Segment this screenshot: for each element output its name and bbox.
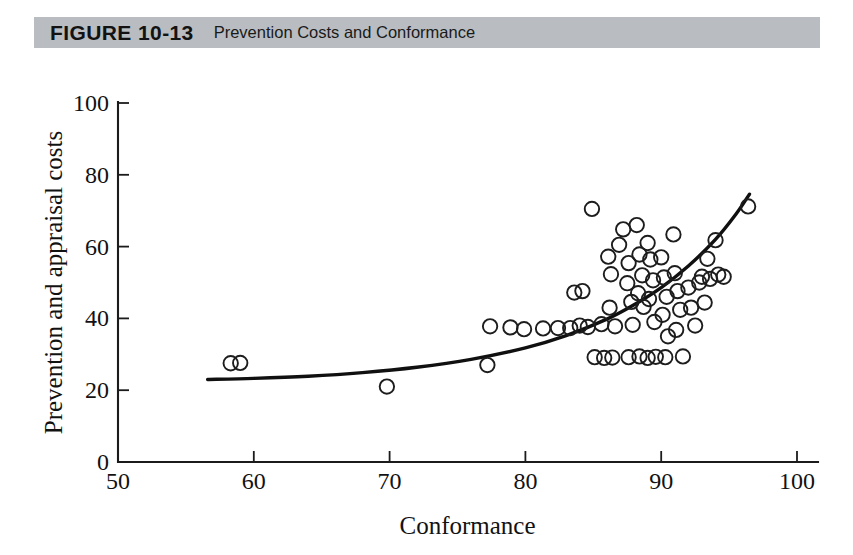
y-tick-label: 80 <box>85 162 109 188</box>
data-point-marker <box>658 350 672 364</box>
data-point-marker <box>605 350 619 364</box>
x-tick-label: 90 <box>649 468 673 494</box>
data-point-marker <box>700 252 714 266</box>
data-point-marker <box>616 222 630 236</box>
axes-group <box>118 102 818 462</box>
data-point-marker <box>630 218 644 232</box>
x-tick-label: 70 <box>378 468 402 494</box>
data-point-marker <box>676 349 690 363</box>
data-point-marker <box>625 318 639 332</box>
x-tick-label: 50 <box>106 468 130 494</box>
data-point-marker <box>612 238 626 252</box>
data-point-marker <box>483 319 497 333</box>
x-axis-title: Conformance <box>399 512 535 539</box>
data-point-marker <box>480 358 494 372</box>
x-tick-label: 80 <box>513 468 537 494</box>
axis-labels-group: 0204060801005060708090100ConformancePrev… <box>40 90 815 539</box>
data-point-marker <box>536 321 550 335</box>
data-point-marker <box>716 270 730 284</box>
data-point-marker <box>517 322 531 336</box>
x-tick-label: 60 <box>242 468 266 494</box>
data-point-marker <box>659 290 673 304</box>
data-point-marker <box>608 319 622 333</box>
y-axis-title: Prevention and appraisal costs <box>40 131 67 434</box>
plot-canvas: 0204060801005060708090100ConformancePrev… <box>0 0 853 555</box>
data-points-group <box>224 199 756 394</box>
y-tick-label: 60 <box>85 234 109 260</box>
data-point-marker <box>666 227 680 241</box>
data-point-marker <box>684 300 698 314</box>
axis-spines <box>118 102 818 462</box>
scatter-plot: 0204060801005060708090100ConformancePrev… <box>0 0 853 555</box>
data-point-marker <box>697 295 711 309</box>
data-point-marker <box>585 202 599 216</box>
data-point-marker <box>597 351 611 365</box>
y-tick-label: 100 <box>73 90 109 116</box>
data-point-marker <box>604 267 618 281</box>
data-point-marker <box>380 379 394 393</box>
data-point-marker <box>575 284 589 298</box>
x-tick-label: 100 <box>779 468 815 494</box>
data-point-marker <box>640 236 654 250</box>
data-point-marker <box>602 300 616 314</box>
figure-container: FIGURE 10-13 Prevention Costs and Confor… <box>0 0 853 555</box>
data-point-marker <box>233 356 247 370</box>
data-point-marker <box>654 250 668 264</box>
data-point-marker <box>503 320 517 334</box>
y-tick-label: 20 <box>85 377 109 403</box>
data-point-marker <box>601 249 615 263</box>
y-tick-label: 40 <box>85 305 109 331</box>
data-point-marker <box>688 318 702 332</box>
